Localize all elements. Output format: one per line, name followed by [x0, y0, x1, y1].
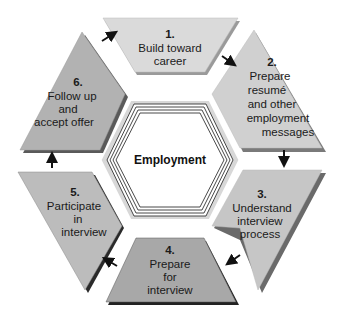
segment-1-number: 1. [165, 28, 175, 40]
arrow-3-to-4-icon [230, 255, 240, 262]
segment-5-line-2: in [74, 213, 83, 225]
segment-4-prepare-for-interview: 4. Prepare for interview [106, 238, 239, 305]
segment-2-number: 2. [267, 56, 277, 68]
segment-4-line-1: Prepare [150, 258, 191, 270]
segment-3-line-2: interview [237, 215, 283, 227]
segment-2-line-2: resumé [248, 84, 286, 96]
segment-2-line-3: and other [248, 98, 297, 110]
segment-3-number: 3. [257, 188, 267, 200]
segment-2-line-4: employment [247, 112, 310, 124]
arrow-6-to-1-icon [102, 34, 113, 41]
segment-5-number: 5. [70, 186, 80, 198]
segment-6-line-3: accept offer [34, 116, 94, 128]
segment-6-follow-up-accept-offer: 6. Follow up and accept offer [20, 32, 128, 153]
arrow-1-to-2-icon [222, 56, 232, 63]
segment-1-line-2: career [154, 55, 187, 67]
segment-3-understand-interview: 3. Understand interview process [212, 170, 326, 293]
segment-3-line-1: Understand [232, 202, 291, 214]
center-label: Employment [134, 153, 206, 167]
arrow-4-to-5-icon [107, 260, 117, 266]
segment-1-line-1: Build toward [138, 42, 201, 54]
center-hexagon: Employment [105, 104, 235, 216]
segment-4-number: 4. [165, 244, 175, 256]
segment-6-line-1: Follow up [47, 90, 96, 102]
employment-cycle-diagram: Employment 1. Build toward career 2. Pre… [0, 0, 338, 320]
segment-2-line-5: messages [262, 126, 315, 138]
segment-4-line-3: interview [147, 284, 193, 296]
segment-2-prepare-resume: 2. Prepare resumé and other employment m… [212, 30, 326, 152]
segment-1-build-toward-career: 1. Build toward career [103, 18, 240, 75]
segment-3-line-3: process [240, 228, 281, 240]
segment-5-participate-in-interview: 5. Participate in interview [18, 172, 124, 293]
segment-5-line-3: interview [61, 226, 107, 238]
segment-4-line-2: for [163, 271, 177, 283]
segment-2-line-1: Prepare [250, 70, 291, 82]
segment-6-number: 6. [73, 76, 83, 88]
segment-5-line-1: Participate [47, 200, 101, 212]
segment-6-line-2: and [58, 103, 77, 115]
